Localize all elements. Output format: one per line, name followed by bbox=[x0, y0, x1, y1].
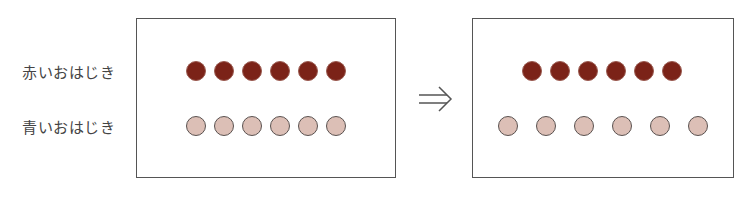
red-marble bbox=[634, 61, 654, 81]
red-marble bbox=[606, 61, 626, 81]
blue-marble bbox=[242, 116, 262, 136]
blue-marble bbox=[574, 116, 594, 136]
red-marble bbox=[326, 61, 346, 81]
red-marble bbox=[242, 61, 262, 81]
red-marble bbox=[298, 61, 318, 81]
after-panel bbox=[472, 18, 734, 178]
red-marble bbox=[578, 61, 598, 81]
blue-marble bbox=[270, 116, 290, 136]
red-marble bbox=[186, 61, 206, 81]
blue-marble bbox=[214, 116, 234, 136]
red-marble bbox=[522, 61, 542, 81]
implies-arrow-icon bbox=[417, 84, 457, 114]
red-marble bbox=[550, 61, 570, 81]
blue-marble bbox=[688, 116, 708, 136]
blue-marble bbox=[536, 116, 556, 136]
red-marbles-label: 赤いおはじき bbox=[22, 61, 115, 82]
blue-marble bbox=[498, 116, 518, 136]
red-marble bbox=[270, 61, 290, 81]
red-marble bbox=[662, 61, 682, 81]
blue-marbles-label: 青いおはじき bbox=[22, 116, 115, 137]
blue-marble bbox=[612, 116, 632, 136]
red-marble bbox=[214, 61, 234, 81]
blue-marble bbox=[650, 116, 670, 136]
before-panel bbox=[136, 18, 396, 178]
blue-marble bbox=[298, 116, 318, 136]
blue-marble bbox=[186, 116, 206, 136]
blue-marble bbox=[326, 116, 346, 136]
